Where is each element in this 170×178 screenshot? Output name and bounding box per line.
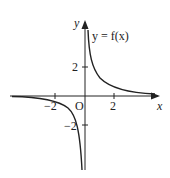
origin-label: O: [75, 99, 84, 113]
curve-label: y = f(x): [92, 29, 129, 43]
y-tick-label-2: 2: [72, 60, 78, 74]
y-axis-label: y: [73, 16, 80, 30]
x-tick-label-minus2: −2: [44, 99, 57, 113]
y-tick-label-minus2: −2: [64, 119, 77, 133]
x-tick-label-2: 2: [110, 99, 116, 113]
graph: y x y = f(x) O 2 −2 2 −2: [0, 0, 170, 178]
y-axis-arrow-icon: [82, 20, 89, 29]
x-axis-label: x: [156, 99, 163, 113]
plot-area: y x y = f(x) O 2 −2 2 −2: [0, 0, 170, 178]
